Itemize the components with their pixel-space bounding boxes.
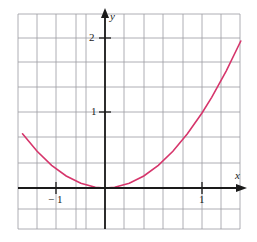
parabola-graph-figure: y x 2 1 1 − 1 bbox=[0, 0, 257, 242]
x-axis-arrow bbox=[236, 184, 247, 192]
graph-canvas bbox=[0, 0, 257, 242]
parabola-curve bbox=[23, 41, 241, 188]
y-tick-label-2: 2 bbox=[89, 32, 95, 43]
y-axis-arrow bbox=[101, 8, 109, 18]
x-tick-label-minus-1: − 1 bbox=[48, 194, 62, 205]
y-axis bbox=[99, 8, 111, 229]
y-tick-label-1: 1 bbox=[91, 106, 97, 117]
y-axis-label: y bbox=[110, 11, 115, 22]
x-tick-label-1: 1 bbox=[199, 194, 205, 205]
x-axis-label: x bbox=[235, 170, 240, 181]
